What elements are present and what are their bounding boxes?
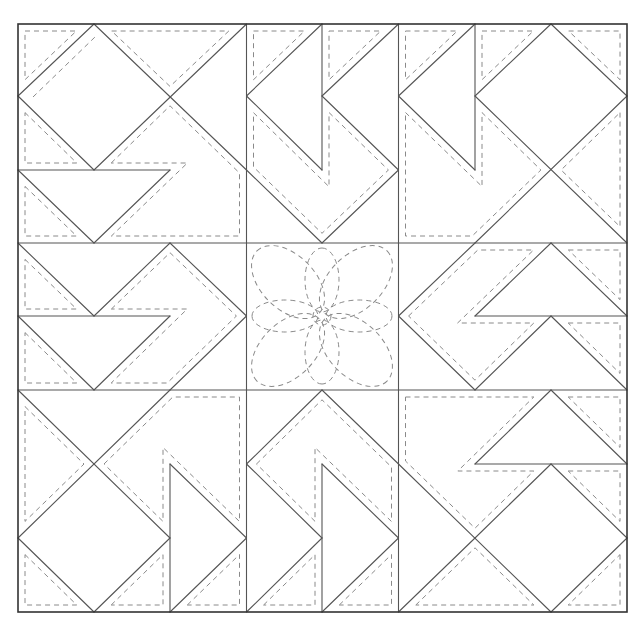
quilt-diagram [0,0,643,626]
